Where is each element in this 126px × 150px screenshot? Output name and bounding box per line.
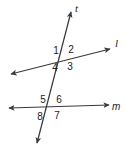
angle-label-8: 8 xyxy=(35,112,45,122)
geometry-diagram-svg xyxy=(0,0,126,150)
line-label-t: t xyxy=(75,3,78,14)
line-transversal-t xyxy=(37,12,71,143)
angle-label-4: 4 xyxy=(50,63,60,73)
angle-label-3: 3 xyxy=(65,62,75,72)
geometry-figure: t l m 1 2 3 4 5 6 7 8 xyxy=(0,0,126,150)
angle-label-1: 1 xyxy=(51,46,61,56)
angle-label-5: 5 xyxy=(38,95,48,105)
line-label-m: m xyxy=(112,101,120,112)
angle-label-2: 2 xyxy=(66,45,76,55)
angle-label-7: 7 xyxy=(52,111,62,121)
line-m xyxy=(9,105,109,108)
line-label-l: l xyxy=(115,38,118,49)
angle-label-6: 6 xyxy=(54,95,64,105)
